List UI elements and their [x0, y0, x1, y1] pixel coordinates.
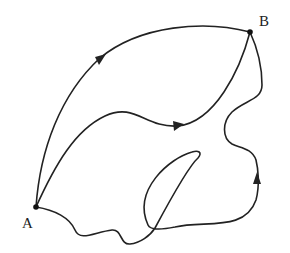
lower-path-arrow-icon	[253, 172, 261, 184]
point-a-label: A	[22, 215, 33, 231]
point-a-dot	[33, 204, 39, 210]
lower-path	[36, 32, 262, 244]
point-b-dot	[247, 29, 253, 35]
middle-path	[36, 32, 250, 207]
point-b-label: B	[259, 13, 269, 29]
path-diagram: A B	[0, 0, 290, 253]
upper-path-arrow-icon	[95, 54, 106, 65]
upper-path	[36, 26, 250, 207]
